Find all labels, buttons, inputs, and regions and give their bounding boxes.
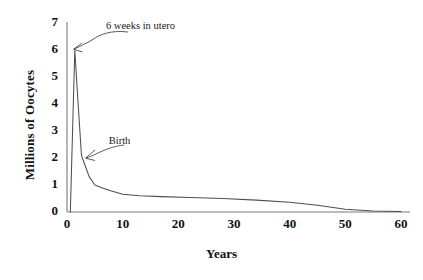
y-axis-title: Millions of Oocytes <box>22 35 38 215</box>
y-tick-4: 4 <box>40 95 58 111</box>
y-tick-7: 7 <box>40 14 58 30</box>
x-tick-40: 40 <box>277 216 303 232</box>
y-tick-3: 3 <box>40 122 58 138</box>
annotation-arrow-6-weeks-in-utero <box>74 31 129 52</box>
annotation-arrow-path-birth <box>86 145 124 158</box>
chart-plot-area <box>0 0 423 280</box>
y-tick-6: 6 <box>40 41 58 57</box>
y-tick-1: 1 <box>40 176 58 192</box>
annotation-label-6-weeks-in-utero: 6 weeks in utero <box>106 20 175 31</box>
series-line-oocyte-number <box>70 50 401 212</box>
x-tick-20: 20 <box>165 216 191 232</box>
x-tick-60: 60 <box>388 216 414 232</box>
x-tick-50: 50 <box>332 216 358 232</box>
x-tick-0: 0 <box>54 216 80 232</box>
data-series-oocyte-number <box>70 50 401 212</box>
oocyte-line-chart: Millions of Oocytes Years 01234567 01020… <box>0 0 423 280</box>
y-tick-5: 5 <box>40 68 58 84</box>
y-tick-2: 2 <box>40 149 58 165</box>
annotation-label-birth: Birth <box>109 135 131 146</box>
x-tick-30: 30 <box>221 216 247 232</box>
x-tick-10: 10 <box>110 216 136 232</box>
annotation-arrow-path-utero <box>74 31 128 49</box>
annotation-arrow-birth <box>86 145 125 161</box>
axes-group <box>67 22 410 212</box>
x-axis-title: Years <box>0 246 423 262</box>
